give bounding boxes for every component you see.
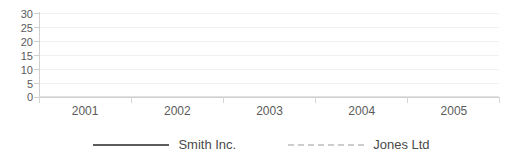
- y-tick-label-5: 5: [5, 79, 33, 90]
- y-tick-label-10: 10: [5, 65, 33, 76]
- chart-title: [0, 0, 523, 5]
- legend-solid-line-icon: [93, 140, 169, 150]
- gridline-30: [39, 13, 499, 14]
- x-tick-label-2004: 2004: [316, 103, 408, 121]
- y-tick-label-0: 0: [5, 92, 33, 103]
- x-tick-label-2002: 2002: [131, 103, 223, 121]
- chart-container: 30 25 20 15 10 5 0 2001 2002 2003 200: [0, 0, 523, 162]
- gridline-5: [39, 83, 499, 84]
- x-tick-label-2003: 2003: [223, 103, 315, 121]
- chart-legend: Smith Inc. Jones Ltd: [0, 133, 523, 157]
- gridline-20: [39, 41, 499, 42]
- gridline-15: [39, 55, 499, 56]
- legend-label-smith-inc: Smith Inc.: [178, 138, 236, 152]
- y-tick-label-30: 30: [5, 9, 33, 20]
- x-tick-label-2001: 2001: [39, 103, 131, 121]
- legend-label-jones-ltd: Jones Ltd: [373, 138, 429, 152]
- y-axis-line: [39, 12, 40, 98]
- plot-area: [39, 12, 499, 97]
- y-tick-label-20: 20: [5, 37, 33, 48]
- x-axis-line: [39, 97, 500, 98]
- legend-entry-jones-ltd[interactable]: Jones Ltd: [288, 138, 429, 152]
- y-tick-label-15: 15: [5, 51, 33, 62]
- x-tick-label-2005: 2005: [408, 103, 500, 121]
- y-axis-labels: 30 25 20 15 10 5 0: [0, 0, 33, 110]
- gridline-10: [39, 69, 499, 70]
- x-axis-labels: 2001 2002 2003 2004 2005: [39, 103, 500, 121]
- legend-dashed-line-icon: [288, 140, 364, 150]
- y-tick-label-25: 25: [5, 23, 33, 34]
- gridline-25: [39, 27, 499, 28]
- legend-entry-smith-inc[interactable]: Smith Inc.: [93, 138, 236, 152]
